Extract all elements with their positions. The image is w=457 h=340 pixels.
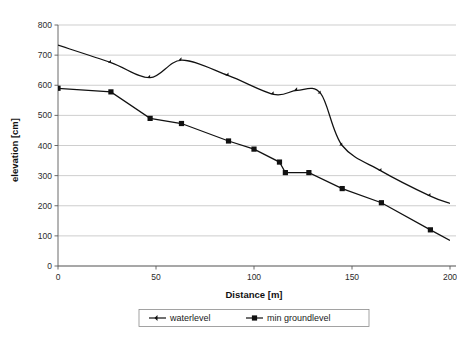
y-axis-title: elevation [cm] [9,118,20,182]
y-tick-label: 300 [38,171,52,181]
data-point-marker [178,57,181,60]
legend-symbol-marker [252,315,257,320]
x-tick-label: 100 [247,272,261,282]
data-point-marker [179,121,184,126]
data-point-marker [55,86,60,91]
y-tick-label: 700 [38,50,52,60]
data-point-marker [271,91,274,94]
chart-legend: waterlevelmin groundlevel [139,310,369,327]
x-tick-label: 50 [151,272,161,282]
data-point-marker [226,138,231,143]
x-axis-title: Distance [m] [225,289,282,300]
x-tick-label: 150 [345,272,359,282]
data-point-marker [283,170,288,175]
y-tick-label: 800 [38,20,52,30]
chart-container: 0100200300400500600700800 050100150200 D… [0,0,457,340]
data-point-marker [294,87,297,90]
legend-label-min-groundlevel: min groundlevel [267,313,331,323]
data-point-marker [277,159,282,164]
y-tick-label: 500 [38,110,52,120]
y-tick-label: 100 [38,231,52,241]
data-point-marker [379,200,384,205]
data-point-marker [306,170,311,175]
series-line-min-groundlevel [58,88,450,240]
y-tick-label: 400 [38,141,52,151]
data-point-marker [428,227,433,232]
gridlines [58,25,456,266]
y-tick-label: 600 [38,80,52,90]
y-tick-label: 0 [47,261,52,271]
x-axis-ticks: 050100150200 [56,266,457,282]
data-point-marker [340,186,345,191]
legend-label-waterlevel: waterlevel [169,313,211,323]
data-point-marker [251,147,256,152]
data-point-marker [108,89,113,94]
data-point-marker [147,75,150,78]
elevation-distance-chart: 0100200300400500600700800 050100150200 D… [0,0,457,340]
data-point-marker [148,116,153,121]
y-tick-label: 200 [38,201,52,211]
series-markers [55,42,433,232]
y-axis-ticks: 0100200300400500600700800 [38,20,58,271]
x-tick-label: 0 [56,272,61,282]
x-tick-label: 200 [443,272,457,282]
series-line-waterlevel [58,45,450,203]
series-paths [58,45,450,240]
